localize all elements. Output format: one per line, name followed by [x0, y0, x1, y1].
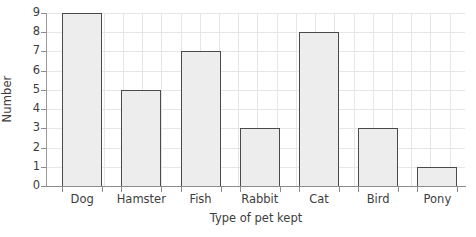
y-axis-title: Number — [0, 56, 14, 142]
gridline-vertical — [354, 13, 355, 186]
gridline-vertical — [430, 13, 431, 186]
gridline-vertical — [450, 13, 451, 186]
bar-fish — [181, 51, 221, 186]
y-tick-label: 8 — [26, 26, 40, 38]
y-axis-line — [46, 13, 47, 187]
gridline-horizontal — [46, 51, 465, 52]
y-tick-label: 4 — [26, 103, 40, 115]
y-tick-label: 6 — [26, 65, 40, 77]
gridline-horizontal — [46, 13, 465, 14]
gridline-horizontal — [46, 71, 465, 72]
y-tick-label: 7 — [26, 45, 40, 57]
bar-rabbit — [240, 128, 280, 186]
bar-dog — [62, 13, 102, 186]
y-tick-label: 3 — [26, 122, 40, 134]
y-axis-tick-labels: 0123456789 — [24, 0, 40, 237]
y-tick-label: 2 — [26, 142, 40, 154]
gridline-vertical — [104, 13, 105, 186]
y-tick-label: 5 — [26, 84, 40, 96]
x-axis-title: Type of pet kept — [46, 211, 466, 225]
gridline-vertical — [296, 13, 297, 186]
gridline-horizontal — [46, 109, 465, 110]
bar-hamster — [121, 90, 161, 186]
y-tick-label: 0 — [26, 180, 40, 192]
y-tick-label: 9 — [26, 7, 40, 19]
bar-chart: Number 0123456789 DogHamsterFishRabbitCa… — [0, 0, 476, 237]
bar-pony — [417, 167, 457, 186]
gridline-vertical — [411, 13, 412, 186]
y-tick-label: 1 — [26, 161, 40, 173]
bar-cat — [299, 32, 339, 186]
x-axis-tick-labels: DogHamsterFishRabbitCatBirdPony — [46, 192, 466, 208]
bar-bird — [358, 128, 398, 186]
x-tick-label-pony: Pony — [397, 192, 476, 207]
plot-area — [46, 13, 465, 186]
gridline-horizontal — [46, 32, 465, 33]
gridline-horizontal — [46, 90, 465, 91]
